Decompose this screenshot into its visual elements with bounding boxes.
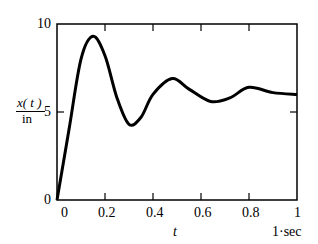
plot-frame — [57, 24, 297, 200]
x-tick-0.8: 0.8 — [242, 206, 260, 220]
y-axis-label-denominator: in — [22, 112, 32, 126]
data-line — [57, 36, 297, 200]
y-tick-5: 5 — [44, 105, 51, 119]
x-tick-0.6: 0.6 — [194, 206, 212, 220]
x-tick-0.4: 0.4 — [146, 206, 164, 220]
y-axis-label-numerator: x( t ) — [17, 96, 42, 110]
x-tick-0.2: 0.2 — [98, 206, 116, 220]
axis-ticks — [57, 24, 297, 200]
x-axis-label: t — [173, 225, 177, 239]
x-axis-unit: 1·sec — [272, 225, 302, 239]
x-tick-1: 1 — [294, 206, 301, 220]
y-tick-10: 10 — [37, 17, 51, 31]
x-tick-0: 0 — [61, 206, 68, 220]
y-tick-0: 0 — [44, 193, 51, 207]
